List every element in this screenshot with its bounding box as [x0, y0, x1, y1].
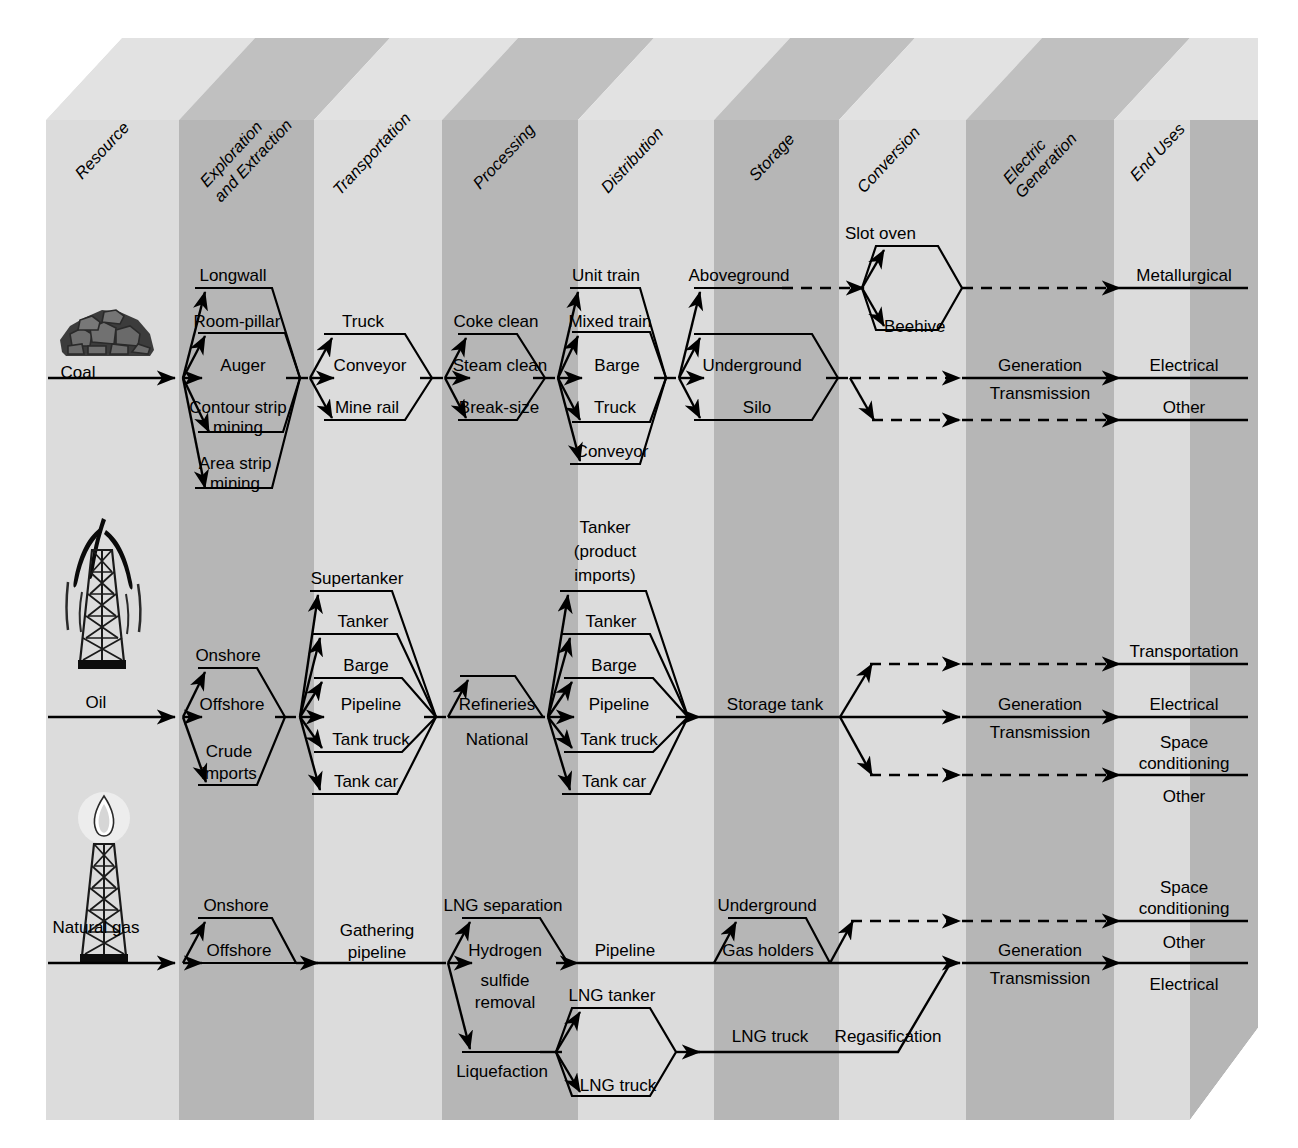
gas-end-space-l1: Space [1160, 878, 1208, 897]
coal-trans-minerail: Mine rail [335, 398, 399, 417]
coal-elec-transmission: Transmission [990, 384, 1090, 403]
oil-trans-supertanker: Supertanker [311, 569, 404, 588]
gas-trans-gathering-l1: Gathering [340, 921, 415, 940]
oil-dist-barge: Barge [591, 656, 636, 675]
gas-stor-gas-holders: Gas holders [722, 941, 814, 960]
gas-end-other: Other [1163, 933, 1206, 952]
coal-dist-conveyor: Conveyor [576, 442, 649, 461]
oil-dist-tank-truck: Tank truck [580, 730, 658, 749]
coal-processing-group: Coke clean Steam clean Break-size [445, 312, 555, 420]
coal-expl-area-l2: mining [210, 474, 260, 493]
oil-dist-tank-car: Tank car [582, 772, 647, 791]
gas-expl-offshore: Offshore [207, 941, 272, 960]
oil-end-electrical: Electrical [1150, 695, 1219, 714]
coal-stor-underground: Underground [702, 356, 801, 375]
coal-expl-contour-l2: mining [213, 418, 263, 437]
oil-expl-crude-l2: imports [201, 764, 257, 783]
coal-expl-contour-l1: Contour strip [189, 398, 286, 417]
oil-expl-offshore: Offshore [200, 695, 265, 714]
coal-dist-barge: Barge [594, 356, 639, 375]
coal-proc-steam: Steam clean [453, 356, 548, 375]
coal-expl-area-l1: Area strip [199, 454, 272, 473]
oil-end-transportation: Transportation [1130, 642, 1239, 661]
coal-expl-longwall: Longwall [199, 266, 266, 285]
coal-expl-room-pillar: Room-pillar [194, 312, 281, 331]
gas-dist-pipeline: Pipeline [595, 941, 656, 960]
coal-stor-silo: Silo [743, 398, 771, 417]
gas-trans-gathering-l2: pipeline [348, 943, 407, 962]
oil-stor-storage-tank: Storage tank [727, 695, 824, 714]
coal-stor-aboveground: Aboveground [688, 266, 789, 285]
oil-proc-national: National [466, 730, 528, 749]
gas-stor-lng-truck: LNG truck [732, 1027, 809, 1046]
gas-proc-h2s-l3: removal [475, 993, 535, 1012]
slab-top-faces [46, 38, 1258, 120]
oil-expl-crude-l1: Crude [206, 742, 252, 761]
gas-proc-lng-sep: LNG separation [443, 896, 562, 915]
gas-dist-lng-truck: LNG truck [580, 1076, 657, 1095]
oil-end-other: Other [1163, 787, 1206, 806]
oil-trans-barge: Barge [343, 656, 388, 675]
oil-elec-transmission: Transmission [990, 723, 1090, 742]
gas-resource-label: Natural gas [53, 918, 140, 937]
coal-dist-unit-train: Unit train [572, 266, 640, 285]
diagram-canvas: Resource Exploration and Extraction Tran… [0, 0, 1298, 1148]
gas-stor-underground: Underground [717, 896, 816, 915]
oil-trans-pipeline: Pipeline [341, 695, 402, 714]
oil-dist-tanker-prod-l2: (product [574, 542, 637, 561]
gas-expl-onshore: Onshore [203, 896, 268, 915]
oil-trans-tank-car: Tank car [334, 772, 399, 791]
gas-end-electrical: Electrical [1150, 975, 1219, 994]
coal-expl-auger: Auger [220, 356, 266, 375]
coal-conv-beehive: Beehive [884, 317, 945, 336]
coal-end-electrical: Electrical [1150, 356, 1219, 375]
coal-trans-conveyor: Conveyor [334, 356, 407, 375]
oil-resource-label: Oil [86, 693, 107, 712]
oil-expl-onshore: Onshore [195, 646, 260, 665]
oil-proc-refineries: Refineries [459, 695, 536, 714]
coal-proc-coke: Coke clean [453, 312, 538, 331]
coal-end-other: Other [1163, 398, 1206, 417]
oil-end-space-l2: conditioning [1139, 754, 1230, 773]
gas-end-space-l2: conditioning [1139, 899, 1230, 918]
oil-trans-tanker: Tanker [337, 612, 388, 631]
oil-elec-generation: Generation [998, 695, 1082, 714]
column-processing [442, 120, 578, 1120]
coal-trans-truck: Truck [342, 312, 384, 331]
energy-flow-diagram: Resource Exploration and Extraction Tran… [0, 0, 1298, 1148]
gas-conv-regasification: Regasification [835, 1027, 942, 1046]
coal-elec-generation: Generation [998, 356, 1082, 375]
gas-elec-transmission: Transmission [990, 969, 1090, 988]
gas-proc-h2s-l2: sulfide [480, 971, 529, 990]
coal-dist-mixed-train: Mixed train [568, 312, 651, 331]
coal-end-metallurgical: Metallurgical [1136, 266, 1231, 285]
oil-trans-tank-truck: Tank truck [332, 730, 410, 749]
gas-proc-h2s-l1: Hydrogen [468, 941, 542, 960]
oil-end-space-l1: Space [1160, 733, 1208, 752]
oil-dist-tanker-prod-l1: Tanker [579, 518, 630, 537]
gas-dist-lng-tanker: LNG tanker [569, 986, 656, 1005]
coal-conv-slot-oven: Slot oven [845, 224, 916, 243]
oil-dist-tanker: Tanker [585, 612, 636, 631]
coal-proc-break: Break-size [459, 398, 539, 417]
oil-dist-tanker-prod-l3: imports) [574, 566, 635, 585]
oil-dist-pipeline: Pipeline [589, 695, 650, 714]
gas-proc-liquefaction: Liquefaction [456, 1062, 548, 1081]
gas-elec-generation: Generation [998, 941, 1082, 960]
coal-dist-truck: Truck [594, 398, 636, 417]
